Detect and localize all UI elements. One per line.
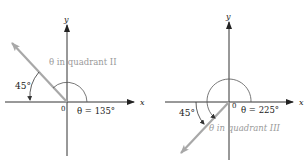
reference-angle-arc (196, 102, 204, 124)
y-axis-label: y (225, 12, 231, 21)
quadrant-label: θ in quadrant II (49, 57, 117, 67)
quadrant-label: θ in quadrant III (209, 123, 281, 133)
x-axis-label: x (299, 98, 304, 107)
reference-angle-arc (30, 72, 39, 100)
reference-angle-figure: y x 0 45° θ = 135° θ in quadrant II y x … (0, 0, 308, 168)
terminal-ray (12, 43, 67, 102)
diagram-quadrant-iii: y x 0 45° θ = 225° θ in quadrant III (165, 12, 304, 160)
reference-angle-label: 45° (179, 108, 195, 118)
origin-label: 0 (232, 102, 236, 110)
theta-value-label: θ = 135° (77, 106, 115, 116)
diagram-quadrant-ii: y x 0 45° θ = 135° θ in quadrant II (5, 15, 145, 156)
theta-value-label: θ = 225° (241, 105, 279, 115)
x-axis-label: x (140, 98, 145, 107)
y-axis-label: y (63, 15, 69, 24)
origin-label: 0 (61, 105, 65, 113)
reference-angle-label: 45° (15, 81, 31, 91)
